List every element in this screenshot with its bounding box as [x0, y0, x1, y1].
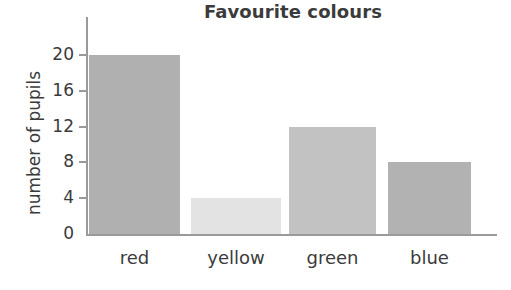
bar-chart: Favourite colours number of pupils 04812…: [0, 0, 511, 290]
x-axis-line: [86, 234, 497, 236]
bar-blue: [388, 162, 471, 234]
bar-green: [289, 127, 376, 234]
category-label-red: red: [89, 247, 180, 268]
bars-group: [0, 0, 511, 234]
bar-yellow: [191, 198, 281, 234]
category-label-blue: blue: [388, 247, 471, 268]
category-label-yellow: yellow: [191, 247, 281, 268]
category-label-green: green: [289, 247, 376, 268]
bar-red: [89, 55, 180, 234]
